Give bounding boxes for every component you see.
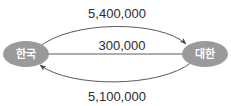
diagram-canvas: 한국 대한 5,400,000 300,000 5,100,000 [0,0,231,106]
edge-middle-label: 300,000 [99,38,146,53]
node-left-label: 한국 [16,47,36,60]
node-right-label: 대한 [195,47,215,60]
edge-bottom-path [40,62,192,82]
edge-bottom-label: 5,100,000 [88,89,146,104]
graph-diagram: 한국 대한 5,400,000 300,000 5,100,000 [0,0,231,106]
edge-top-label: 5,400,000 [88,6,146,21]
